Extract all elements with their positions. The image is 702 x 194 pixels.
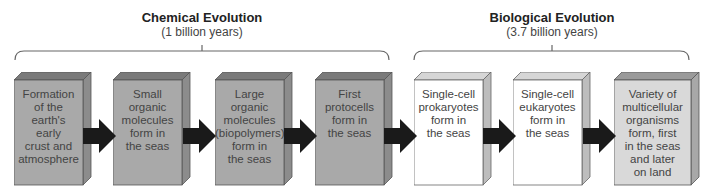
- stage-label-line: of the: [14, 101, 83, 114]
- stage-label: Formation of the earth's early crust and…: [14, 88, 83, 166]
- stage-label: Single-cell prokaryotes form in the seas: [414, 88, 483, 140]
- biological-evolution-bracket: [0, 0, 702, 70]
- arrow-right-icon: [83, 119, 117, 153]
- arrow-right-icon: [583, 119, 617, 153]
- stage-label: Large organic molecules (biopolymers) fo…: [215, 88, 284, 166]
- stage-label-line: Small: [113, 88, 182, 101]
- stage-label-line: First: [315, 88, 384, 101]
- stage-label-line: Single-cell: [414, 88, 483, 101]
- stage-label-line: Formation: [14, 88, 83, 101]
- stage-label-line: the seas: [315, 127, 384, 140]
- stage-label-line: multicellular: [614, 101, 691, 114]
- stage-label-line: and later: [614, 153, 691, 166]
- stage-label: Single-cell eukaryotes form in the seas: [513, 88, 582, 140]
- stage-box-multicellular-organisms: Variety of multicellular organisms form,…: [614, 72, 700, 186]
- stage-label-line: crust and: [14, 140, 83, 153]
- stage-label-line: early: [14, 127, 83, 140]
- stage-label: First protocells form in the seas: [315, 88, 384, 140]
- stage-label-line: the seas: [215, 153, 284, 166]
- stage-label-line: the seas: [513, 127, 582, 140]
- stage-label: Small organic molecules form in the seas: [113, 88, 182, 153]
- stage-box-small-organic-molecules: Small organic molecules form in the seas: [113, 72, 191, 186]
- stage-label-line: Variety of: [614, 88, 691, 101]
- stage-label-line: the seas: [414, 127, 483, 140]
- stage-label-line: form in: [414, 114, 483, 127]
- stage-label-line: form in: [513, 114, 582, 127]
- arrow-right-icon: [284, 119, 318, 153]
- stage-label-line: organisms: [614, 114, 691, 127]
- stage-label-line: Large: [215, 88, 284, 101]
- arrow-right-icon: [483, 119, 517, 153]
- arrow-right-icon: [183, 119, 217, 153]
- stage-box-first-protocells: First protocells form in the seas: [315, 72, 393, 186]
- stage-label-line: molecules: [113, 114, 182, 127]
- stage-box-large-organic-molecules: Large organic molecules (biopolymers) fo…: [215, 72, 293, 186]
- arrow-right-icon: [384, 119, 418, 153]
- stage-label: Variety of multicellular organisms form,…: [614, 88, 691, 179]
- stage-box-earth-formation: Formation of the earth's early crust and…: [14, 72, 92, 186]
- stage-label-line: the seas: [113, 140, 182, 153]
- stage-label-line: organic: [215, 101, 284, 114]
- stage-label-line: prokaryotes: [414, 101, 483, 114]
- stage-label-line: in the seas: [614, 140, 691, 153]
- stage-label-line: atmosphere: [14, 153, 83, 166]
- stage-label-line: on land: [614, 166, 691, 179]
- stage-label-line: eukaryotes: [513, 101, 582, 114]
- stage-box-single-cell-eukaryotes: Single-cell eukaryotes form in the seas: [513, 72, 591, 186]
- stage-label-line: form in: [215, 140, 284, 153]
- stage-label-line: (biopolymers): [215, 127, 284, 140]
- stage-box-single-cell-prokaryotes: Single-cell prokaryotes form in the seas: [414, 72, 492, 186]
- stage-label-line: organic: [113, 101, 182, 114]
- stage-label-line: form in: [315, 114, 384, 127]
- stage-label-line: molecules: [215, 114, 284, 127]
- stage-label-line: form in: [113, 127, 182, 140]
- stage-label-line: protocells: [315, 101, 384, 114]
- stage-label-line: Single-cell: [513, 88, 582, 101]
- stage-label-line: earth's: [14, 114, 83, 127]
- stage-label-line: form, first: [614, 127, 691, 140]
